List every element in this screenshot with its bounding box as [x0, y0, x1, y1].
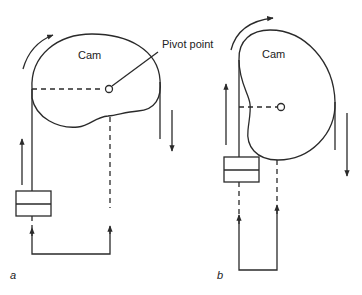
cam-label-b: Cam: [262, 48, 285, 60]
pivot-point-icon: [278, 104, 285, 111]
return-loop: [32, 227, 110, 254]
panel-label-b: b: [217, 269, 223, 281]
cam-shape: [32, 34, 160, 127]
pivot-point-icon: [106, 86, 113, 93]
cam-label-a: Cam: [78, 49, 101, 61]
pivot-point-label: Pivot point: [162, 38, 213, 50]
cam-diagram: Cam Pivot point a Cam b: [0, 0, 362, 295]
panel-a: Cam Pivot point a: [10, 34, 213, 281]
cam-shape: [239, 30, 335, 160]
panel-b: Cam b: [217, 18, 347, 281]
panel-label-a: a: [10, 269, 16, 281]
return-loop: [239, 206, 277, 270]
rotation-arrow-icon: [23, 35, 53, 69]
pivot-leader-line: [112, 52, 158, 86]
